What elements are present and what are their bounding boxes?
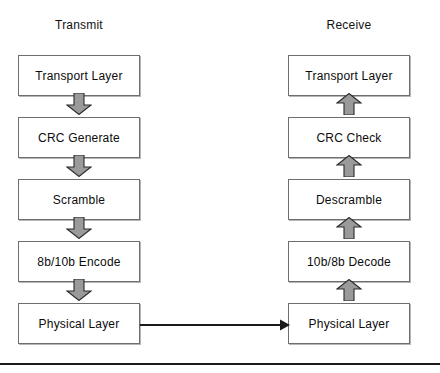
box-label: 8b/10b Encode	[37, 255, 120, 269]
arrow-physical-link	[140, 318, 290, 332]
arrow-down-crc-to-scramble	[66, 155, 92, 177]
arrow-down-encode-to-physical	[66, 279, 92, 301]
box-transmit-8b10b-encode: 8b/10b Encode	[18, 241, 140, 282]
column-heading-receive: Receive	[288, 18, 410, 32]
box-label: Scramble	[53, 193, 105, 207]
box-label: CRC Generate	[38, 131, 120, 145]
box-receive-10b8b-decode: 10b/8b Decode	[288, 241, 410, 282]
box-transmit-transport-layer: Transport Layer	[18, 55, 140, 96]
box-transmit-crc-generate: CRC Generate	[18, 117, 140, 158]
box-transmit-physical-layer: Physical Layer	[18, 303, 140, 344]
arrow-up-physical-to-decode	[336, 279, 362, 301]
box-label: CRC Check	[316, 131, 381, 145]
arrow-up-crc-to-transport	[336, 93, 362, 115]
box-label: Physical Layer	[309, 317, 390, 331]
box-receive-crc-check: CRC Check	[288, 117, 410, 158]
box-label: 10b/8b Decode	[307, 255, 391, 269]
box-transmit-scramble: Scramble	[18, 179, 140, 220]
box-label: Physical Layer	[39, 317, 120, 331]
box-label: Transport Layer	[305, 69, 392, 83]
box-label: Transport Layer	[35, 69, 122, 83]
arrow-down-scramble-to-encode	[66, 217, 92, 239]
arrow-up-decode-to-descramble	[336, 217, 362, 239]
diagram-canvas: Transmit Receive Transport Layer CRC Gen…	[0, 0, 440, 373]
arrow-down-transport-to-crc	[66, 93, 92, 115]
box-receive-transport-layer: Transport Layer	[288, 55, 410, 96]
box-label: Descramble	[316, 193, 382, 207]
column-heading-transmit: Transmit	[18, 18, 140, 32]
bottom-divider	[0, 363, 440, 365]
box-receive-physical-layer: Physical Layer	[288, 303, 410, 344]
box-receive-descramble: Descramble	[288, 179, 410, 220]
arrow-up-descramble-to-crc	[336, 155, 362, 177]
